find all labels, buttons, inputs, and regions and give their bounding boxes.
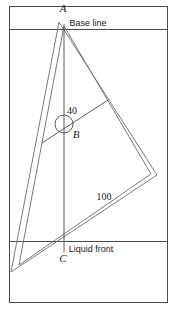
measurement-label-40: 40 xyxy=(67,105,77,116)
vertex-label-c: C xyxy=(59,252,67,264)
measurement-label-100: 100 xyxy=(97,191,112,202)
inner-triangle xyxy=(19,26,151,265)
figure-container: A B C 40 100 Base line Liquid front xyxy=(0,0,178,310)
chromatography-diagram: A B C 40 100 Base line Liquid front xyxy=(0,0,178,310)
vertex-label-a: A xyxy=(59,2,67,14)
liquid-front-label: Liquid front xyxy=(69,244,114,254)
base-line-label: Base line xyxy=(69,18,106,28)
vertex-label-b: B xyxy=(73,128,80,140)
